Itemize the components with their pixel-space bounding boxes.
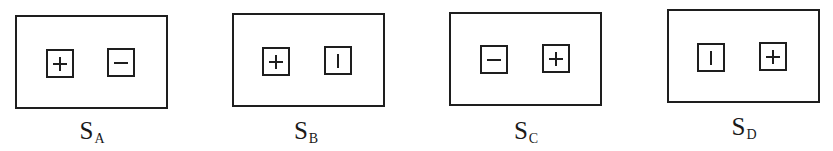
minus-icon: [113, 55, 129, 71]
left-cell-plus: [46, 49, 74, 78]
panel-label-s-a: SA: [52, 118, 132, 147]
label-subscript: D: [746, 127, 756, 142]
label-subscript: C: [529, 131, 538, 146]
label-subscript: A: [94, 131, 104, 146]
plus-icon: [268, 54, 284, 70]
panel-s-d: [667, 9, 820, 103]
right-cell-minus: [107, 48, 135, 77]
plus-icon: [548, 51, 564, 67]
panel-s-c: [449, 12, 602, 106]
label-main: S: [79, 117, 93, 144]
plus-icon: [765, 49, 781, 65]
panel-label-s-b: SB: [266, 118, 346, 147]
panel-label-s-c: SC: [486, 118, 566, 147]
label-main: S: [731, 113, 745, 140]
left-cell-plus: [262, 47, 290, 76]
plus-icon: [52, 56, 68, 72]
left-cell-vertical-bar: [697, 43, 725, 72]
minus-icon: [486, 52, 502, 68]
panel-label-s-d: SD: [704, 114, 784, 143]
label-main: S: [294, 117, 308, 144]
panel-s-a: [15, 15, 168, 109]
right-cell-vertical-bar: [324, 46, 352, 75]
panel-s-b: [232, 13, 385, 107]
vertical-bar-icon: [703, 50, 719, 66]
right-cell-plus: [542, 44, 570, 73]
label-subscript: B: [309, 131, 318, 146]
vertical-bar-icon: [330, 53, 346, 69]
left-cell-minus: [480, 45, 508, 74]
label-main: S: [514, 117, 528, 144]
right-cell-plus: [759, 42, 787, 71]
